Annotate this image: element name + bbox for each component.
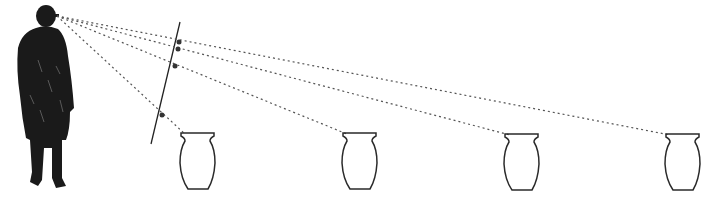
sight-lines [57,16,670,135]
observer-silhouette [17,5,74,188]
vases [180,133,700,190]
perspective-diagram [0,0,704,212]
vase-2 [342,133,377,189]
vase-1 [180,133,215,189]
intersection-points [160,40,182,118]
vase-3 [504,134,539,190]
vase-4 [665,134,700,190]
